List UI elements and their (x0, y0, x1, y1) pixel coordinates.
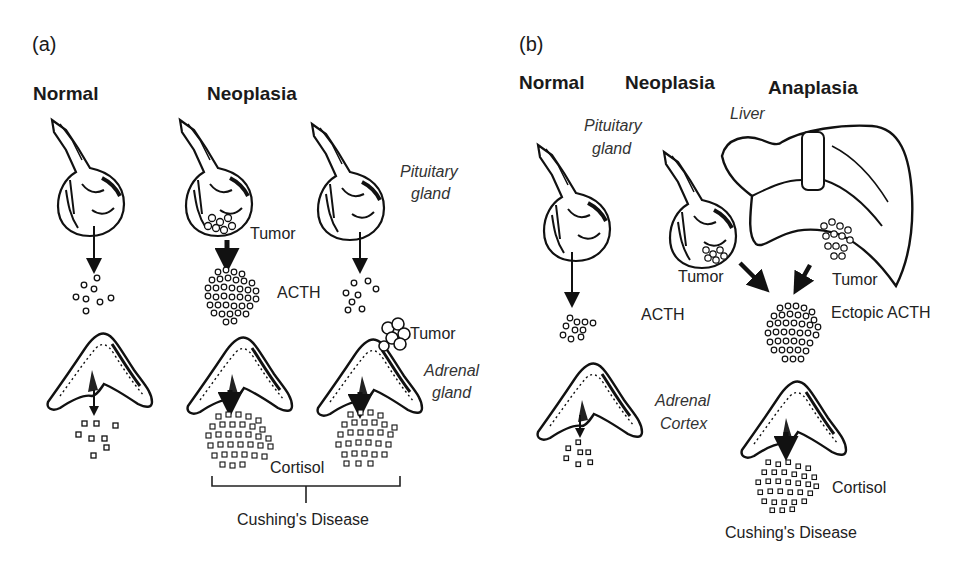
panel-a-adrenal-label-line2: gland (432, 385, 471, 401)
panel-b-pituitary-label-line2: gland (592, 141, 631, 157)
panel-a-cortisol-label: Cortisol (270, 460, 324, 476)
panel-a-normal-cortisol (76, 421, 118, 458)
panel-a-normal-adrenal (48, 334, 152, 410)
panel-b-adrenal-cortex-label-line1: Adrenal (655, 393, 710, 409)
panel-b-heading-neoplasia: Neoplasia (625, 73, 715, 92)
panel-b-tumor-liver-label: Tumor (832, 272, 878, 288)
panel-b-adrenal-cortex-label-line2: Cortex (660, 416, 707, 432)
panel-a-neoplasia-pituitary (180, 120, 252, 236)
panel-b-acth-label: ACTH (641, 307, 685, 323)
panel-a-neoplasia-adrenal (188, 338, 292, 414)
panel-a-pituitary-right (312, 124, 384, 240)
panel-a-pituitary-label-line1: Pituitary (400, 164, 458, 180)
panel-b-anaplasia-adrenal (742, 382, 846, 458)
panel-b-disease-label: Cushing's Disease (725, 525, 857, 541)
panel-a-disease-label: Cushing's Disease (237, 512, 369, 528)
panel-b-normal-pituitary (538, 145, 610, 261)
panel-b-normal-acth (560, 315, 596, 342)
panel-b-cortisol-label: Cortisol (832, 480, 886, 496)
panel-a-normal-pituitary (52, 120, 124, 236)
panel-a-pituitary-label-line2: gland (411, 186, 450, 202)
panel-b-ectopic-acth-label: Ectopic ACTH (831, 305, 931, 321)
panel-a-heading-neoplasia: Neoplasia (207, 84, 297, 103)
panel-a-adrenal-label-line1: Adrenal (424, 363, 479, 379)
panel-a-right-adrenal (318, 340, 422, 416)
panel-a-heading-normal: Normal (33, 84, 98, 103)
panel-b-pituitary-label-line1: Pituitary (584, 118, 642, 134)
panel-b-normal-adrenal (538, 364, 642, 440)
panel-b-tumor-pituitary-label: Tumor (678, 269, 724, 285)
panel-a-adrenal-tumor (379, 318, 410, 351)
panel-b-normal-cortisol (564, 440, 593, 467)
panel-a-acth-label: ACTH (277, 285, 321, 301)
panel-a-tumor-adrenal-label: Tumor (410, 326, 456, 342)
panel-b-ectopic-acth (765, 303, 821, 362)
panel-b-heading-normal: Normal (519, 73, 584, 92)
panel-a-label: (a) (32, 34, 56, 54)
panel-b-liver-label: Liver (730, 106, 765, 122)
panel-b-neoplasia-pituitary (664, 152, 736, 268)
panel-a-right-cortisol (336, 410, 397, 466)
panel-a-tumor-pituitary-label: Tumor (250, 226, 296, 242)
panel-b-label: (b) (519, 34, 543, 54)
panel-a-neoplasia-acth (205, 267, 259, 325)
panel-b-heading-anaplasia: Anaplasia (768, 78, 858, 97)
panel-a-neoplasia-cortisol (206, 412, 273, 468)
panel-b-anaplasia-cortisol (756, 460, 819, 513)
panel-a-bracket (212, 476, 400, 503)
panel-a-right-acth (343, 278, 379, 313)
panel-b-liver (722, 126, 912, 286)
panel-a-normal-acth (73, 275, 114, 314)
